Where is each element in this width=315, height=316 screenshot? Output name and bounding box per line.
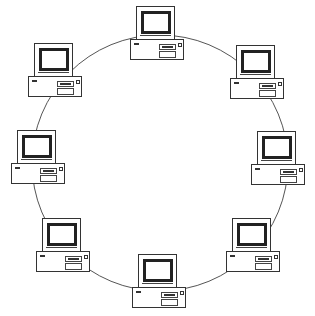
monitor-icon — [138, 254, 177, 288]
screen — [143, 259, 173, 282]
ring-network-diagram — [0, 0, 315, 316]
computer-icon-top-right — [230, 45, 284, 99]
disk-drive-icon — [65, 256, 82, 262]
screen — [262, 136, 292, 159]
disk-drive-icon — [57, 81, 74, 87]
system-unit-icon — [230, 78, 284, 99]
screen — [47, 223, 77, 246]
disk-drive-icon — [161, 292, 178, 298]
disk-drive-icon — [65, 263, 82, 270]
screen — [237, 223, 267, 246]
monitor-icon — [34, 43, 73, 77]
disk-drive-icon — [259, 83, 276, 89]
system-unit-icon — [11, 163, 65, 184]
computer-icon-top-left — [28, 43, 82, 97]
disk-drive-icon — [159, 44, 176, 50]
disk-drive-icon — [280, 176, 297, 183]
screen — [39, 48, 69, 71]
disk-drive-icon — [159, 51, 176, 58]
computer-icon-left — [11, 130, 65, 184]
disk-drive-icon — [40, 175, 57, 182]
monitor-icon — [17, 130, 56, 164]
screen — [241, 50, 271, 73]
system-unit-icon — [226, 251, 280, 272]
disk-drive-icon — [40, 168, 57, 174]
system-unit-icon — [36, 251, 90, 272]
computer-icon-right — [251, 131, 305, 185]
disk-drive-icon — [161, 299, 178, 306]
system-unit-icon — [132, 287, 186, 308]
computer-icon-bottom — [132, 254, 186, 308]
screen — [141, 11, 171, 34]
disk-drive-icon — [57, 88, 74, 95]
monitor-icon — [257, 131, 296, 165]
computer-icon-top — [130, 6, 184, 60]
screen — [22, 135, 52, 158]
system-unit-icon — [130, 39, 184, 60]
disk-drive-icon — [255, 256, 272, 262]
monitor-icon — [232, 218, 271, 252]
system-unit-icon — [28, 76, 82, 97]
disk-drive-icon — [280, 169, 297, 175]
disk-drive-icon — [255, 263, 272, 270]
monitor-icon — [236, 45, 275, 79]
monitor-icon — [42, 218, 81, 252]
monitor-icon — [136, 6, 175, 40]
computer-icon-bottom-right — [226, 218, 280, 272]
disk-drive-icon — [259, 90, 276, 97]
system-unit-icon — [251, 164, 305, 185]
computer-icon-bottom-left — [36, 218, 90, 272]
